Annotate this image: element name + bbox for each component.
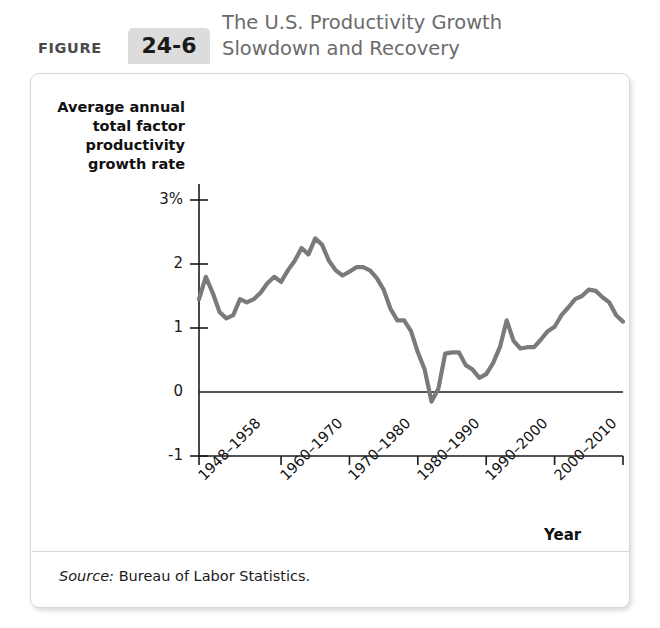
figure-number-box: 24-6 bbox=[128, 28, 210, 64]
productivity-growth-line bbox=[199, 238, 623, 401]
source-prefix: Source: bbox=[59, 568, 114, 584]
source-text: Bureau of Labor Statistics. bbox=[119, 568, 310, 584]
figure-panel: Average annual total factor productivity… bbox=[30, 73, 630, 608]
chart-svg bbox=[31, 74, 631, 552]
figure-root: FIGURE 24-6 The U.S. Productivity Growth… bbox=[0, 0, 660, 628]
x-tick-marks bbox=[199, 456, 623, 465]
figure-number: 24-6 bbox=[128, 33, 210, 58]
chart-plot-area: Average annual total factor productivity… bbox=[31, 74, 631, 552]
source-note: Source: Bureau of Labor Statistics. bbox=[59, 568, 310, 584]
figure-title: The U.S. Productivity Growth Slowdown an… bbox=[222, 10, 622, 62]
figure-title-line-2: Slowdown and Recovery bbox=[222, 36, 622, 62]
figure-title-line-1: The U.S. Productivity Growth bbox=[222, 10, 622, 36]
panel-divider bbox=[32, 551, 630, 552]
figure-header: FIGURE 24-6 The U.S. Productivity Growth… bbox=[30, 8, 630, 70]
figure-label-word: FIGURE bbox=[38, 40, 102, 56]
